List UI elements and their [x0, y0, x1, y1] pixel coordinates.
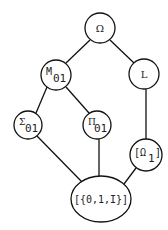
edge-omega-l	[110, 40, 134, 63]
edge-sigma01-bottom	[37, 136, 82, 182]
lattice-diagram: Ω M 01 L Σ 01 Π 01 [Ω 1 ] [{0,1,I}]	[0, 0, 168, 230]
node-omega1-close-bracket: ]	[155, 147, 161, 158]
node-omega1-label: [Ω	[134, 147, 146, 158]
node-sigma01: Σ 01	[14, 111, 42, 139]
edge-omega-m01	[66, 40, 90, 63]
node-m01: M 01	[41, 60, 71, 90]
node-l-label: L	[141, 69, 148, 80]
node-pi01: Π 01	[83, 111, 111, 139]
node-bottom-label: [{0,1,I}]	[74, 194, 128, 205]
node-omega1-subscript: 1	[148, 152, 155, 165]
edge-m01-pi01	[66, 87, 89, 113]
edge-omega1-bottom	[124, 168, 136, 184]
node-bottom: [{0,1,I}]	[71, 176, 131, 222]
edge-m01-sigma01	[36, 87, 47, 113]
node-omega-label: Ω	[96, 23, 104, 34]
node-m01-label: M	[46, 66, 52, 77]
node-m01-subscript: 01	[53, 72, 66, 85]
node-pi01-subscript: 01	[94, 122, 107, 135]
node-omega1: [Ω 1 ]	[130, 139, 162, 171]
node-l: L	[129, 59, 159, 89]
node-sigma01-subscript: 01	[25, 122, 38, 135]
node-omega: Ω	[85, 13, 115, 43]
